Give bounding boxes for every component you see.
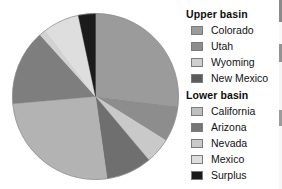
legend-label-arizona: Arizona	[211, 121, 247, 134]
legend-item-utah[interactable]: Utah	[186, 38, 280, 54]
legend-label-surplus: Surplus	[211, 169, 247, 182]
legend-swatch-utah	[191, 42, 203, 51]
pie-slice-colorado-0[interactable]	[96, 14, 179, 107]
legend-item-wyoming[interactable]: Wyoming	[186, 54, 280, 70]
legend-label-utah: Utah	[211, 40, 233, 53]
legend-item-california[interactable]: California	[186, 103, 280, 119]
pie-slice-group	[13, 13, 179, 179]
legend-label-california: California	[211, 105, 255, 118]
legend-item-new-mexico[interactable]: New Mexico	[186, 70, 280, 86]
legend-group-upper-basin: Upper basin Colorado Utah Wyoming New Me…	[186, 8, 280, 86]
legend-swatch-new-mexico	[191, 74, 203, 83]
legend-item-mexico[interactable]: Mexico	[186, 151, 280, 167]
legend-swatch-arizona	[191, 123, 203, 132]
legend-label-new-mexico: New Mexico	[211, 72, 268, 85]
legend-label-nevada: Nevada	[211, 137, 247, 150]
legend-item-nevada[interactable]: Nevada	[186, 135, 280, 151]
legend-swatch-wyoming	[191, 58, 203, 67]
legend-label-colorado: Colorado	[211, 24, 254, 37]
legend-swatch-mexico	[191, 155, 203, 164]
pie-slice-california-4[interactable]	[13, 97, 107, 180]
chart-page: Upper basin Colorado Utah Wyoming New Me…	[0, 0, 282, 189]
legend-group-title-lower-basin: Lower basin	[186, 89, 280, 102]
legend-swatch-surplus	[191, 171, 203, 180]
legend-label-wyoming: Wyoming	[211, 56, 255, 69]
legend-swatch-colorado	[191, 26, 203, 35]
pie-chart-svg	[11, 12, 180, 181]
legend-item-surplus[interactable]: Surplus	[186, 167, 280, 183]
page-edge-artifact	[279, 0, 282, 189]
legend-label-mexico: Mexico	[211, 153, 244, 166]
legend-item-colorado[interactable]: Colorado	[186, 22, 280, 38]
legend-group-title-upper-basin: Upper basin	[186, 8, 280, 21]
chart-legend: Upper basin Colorado Utah Wyoming New Me…	[186, 8, 280, 184]
legend-swatch-california	[191, 107, 203, 116]
legend-swatch-nevada	[191, 139, 203, 148]
legend-item-arizona[interactable]: Arizona	[186, 119, 280, 135]
legend-group-lower-basin: Lower basin California Arizona Nevada Me…	[186, 89, 280, 183]
pie-chart	[11, 12, 180, 181]
